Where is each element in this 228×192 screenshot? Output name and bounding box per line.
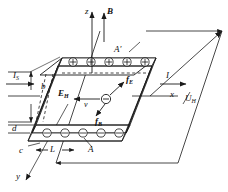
magnetic-field-label: B	[107, 7, 113, 16]
hall-effect-figure: z B A′ IS b EH v fE fB I x UH d c L A y	[0, 0, 228, 192]
dimension-c	[28, 143, 40, 146]
x-axis-label: x	[170, 90, 174, 99]
leader-A-prime	[129, 42, 140, 52]
y-axis-arrow	[26, 104, 68, 180]
electric-force-label: fE	[126, 75, 133, 84]
z-axis-label: z	[85, 7, 89, 16]
y-axis-label: y	[16, 172, 20, 181]
fE-arrow	[110, 82, 124, 95]
slab-current-label: I	[166, 71, 169, 80]
hall-field-subscript: H	[64, 93, 69, 99]
dimension-L-label: L	[50, 145, 55, 154]
magnetic-force-subscript: B	[98, 121, 102, 127]
electric-force-subscript: E	[129, 79, 133, 85]
face-A-label: A	[88, 145, 94, 154]
fB-arrow	[96, 104, 105, 116]
charge-carrier	[101, 94, 110, 103]
hall-voltage-symbol: U	[185, 93, 192, 103]
dimension-d-label: d	[12, 124, 17, 133]
drift-velocity-label: v	[84, 101, 88, 109]
hall-voltage-subscript: H	[192, 98, 196, 104]
magnetic-force-label: fB	[95, 117, 102, 126]
hall-voltage-label: UH	[185, 94, 196, 103]
hall-field-label: EH	[58, 89, 69, 98]
face-A-prime-label: A′	[114, 45, 121, 54]
source-current-label: IS	[13, 71, 19, 80]
dimension-b-label: b	[41, 82, 46, 91]
source-current-subscript: S	[16, 75, 19, 81]
dimension-c-label: c	[19, 146, 23, 155]
